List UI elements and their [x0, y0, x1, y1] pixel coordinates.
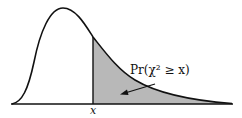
chi-square-diagram: x Pr(χ² ≥ x): [0, 0, 242, 118]
probability-annotation: Pr(χ² ≥ x): [130, 63, 190, 77]
x-axis-label: x: [90, 104, 97, 117]
